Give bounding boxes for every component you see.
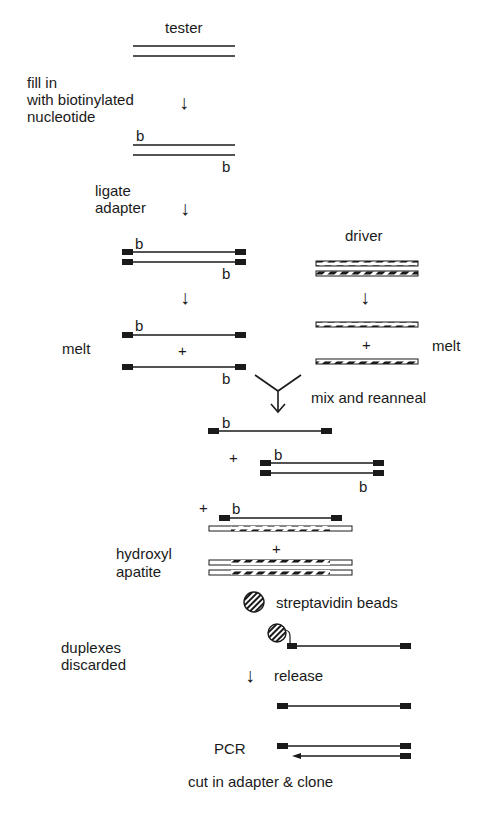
label-apatite: apatite	[116, 563, 161, 580]
plus-sign: +	[178, 343, 187, 358]
label-tester: tester	[165, 19, 203, 36]
label-melt-right: melt	[432, 337, 460, 354]
label-fill-in: fill in	[27, 74, 57, 91]
label-driver: driver	[345, 227, 383, 244]
bead-bound-strand	[268, 624, 411, 649]
merge-arrow	[255, 375, 301, 412]
pcr-amplification	[277, 743, 411, 759]
plus-sign: +	[199, 500, 208, 515]
biotin-label: b	[135, 318, 143, 333]
down-arrow-icon: ↓	[245, 665, 255, 685]
biotin-label: b	[359, 479, 367, 494]
released-strand	[277, 703, 411, 709]
biotinylated-duplex	[133, 145, 235, 155]
label-nucleotide: nucleotide	[27, 108, 95, 125]
extension-arrowhead-icon	[292, 753, 301, 759]
adapter-block	[235, 259, 246, 265]
biotin-label: b	[135, 236, 143, 251]
biotin-label: b	[222, 415, 230, 430]
label-melt-left: melt	[62, 340, 90, 357]
down-arrow-icon: ↓	[180, 287, 190, 307]
plus-sign: +	[362, 337, 371, 352]
down-arrow-icon: ↓	[179, 92, 189, 112]
adapter-block	[122, 249, 133, 255]
streptavidin-bead-icon	[244, 592, 264, 612]
label-duplexes: duplexes	[61, 639, 121, 656]
biotin-label: b	[232, 501, 240, 516]
label-release: release	[274, 667, 323, 684]
down-arrow-icon: ↓	[180, 198, 190, 218]
label-discarded: discarded	[61, 656, 126, 673]
biotin-label: b	[136, 128, 144, 143]
plus-sign: +	[229, 450, 238, 465]
biotin-label: b	[222, 371, 230, 386]
driver-duplex	[316, 261, 418, 276]
driver-strand	[316, 322, 418, 327]
label-streptavidin-beads: streptavidin beads	[276, 594, 398, 611]
tester-duplex	[133, 46, 235, 56]
biotin-label: b	[222, 159, 230, 174]
label-hydroxyl: hydroxyl	[116, 545, 172, 562]
driver-strand	[316, 261, 418, 266]
streptavidin-bead-icon	[268, 624, 286, 642]
driver-strand	[316, 359, 418, 364]
down-arrow-icon: ↓	[360, 287, 370, 307]
label-mix-reanneal: mix and reanneal	[311, 389, 426, 406]
label-ligate: ligate	[95, 182, 131, 199]
driver-driver-duplex	[209, 560, 352, 575]
plus-sign: +	[272, 541, 281, 556]
adapter-block	[235, 249, 246, 255]
label-adapter: adapter	[95, 199, 146, 216]
biotin-label: b	[222, 266, 230, 281]
adapter-block	[122, 259, 133, 265]
tester-driver-hybrid	[209, 515, 352, 531]
biotin-label: b	[274, 447, 282, 462]
driver-strand	[316, 271, 418, 276]
label-pcr: PCR	[214, 740, 246, 757]
label-cut-clone: cut in adapter & clone	[188, 773, 333, 790]
label-with-biotinylated: with biotinylated	[27, 91, 134, 108]
